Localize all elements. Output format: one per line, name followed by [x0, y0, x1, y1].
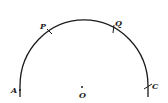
arc [20, 20, 148, 97]
point-a-dot [19, 89, 21, 91]
label-c: C [152, 81, 159, 91]
label-q: Q [115, 18, 122, 28]
center-dot [81, 86, 83, 88]
arc-diagram: A P Q C O [0, 0, 168, 103]
label-o: O [79, 90, 86, 100]
label-a: A [10, 85, 17, 95]
tick-q [113, 25, 114, 33]
label-p: P [39, 21, 47, 31]
